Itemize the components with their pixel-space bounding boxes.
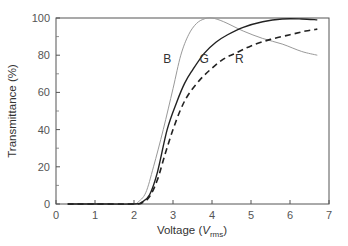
x-axis-title: Voltage (Vrms)	[157, 224, 227, 239]
curve-labels: BGR	[163, 52, 244, 66]
x-axis-title-close: )	[223, 224, 227, 236]
transmittance-voltage-chart: 01234567 020406080100 BGR Transmittance …	[0, 0, 348, 246]
x-tick-label: 0	[53, 209, 59, 221]
x-tick-label: 6	[287, 209, 293, 221]
y-tick-label: 80	[38, 49, 50, 61]
y-tick-label: 40	[38, 124, 50, 136]
curve-label-r: R	[235, 52, 244, 66]
series-g-curve	[68, 19, 318, 204]
curve-label-b: B	[163, 52, 171, 66]
x-tick-label: 5	[248, 209, 254, 221]
y-tick-label: 100	[32, 12, 50, 24]
y-axis-title: Transmittance (%)	[6, 64, 18, 158]
series-layer	[68, 18, 318, 204]
x-tick-label: 2	[131, 209, 137, 221]
x-axis-title-main: Voltage (	[157, 224, 203, 236]
curve-label-g: G	[200, 52, 209, 66]
x-tick-label: 3	[170, 209, 176, 221]
series-r-curve	[68, 29, 318, 204]
y-tick-label: 0	[44, 198, 50, 210]
y-tick-label: 20	[38, 161, 50, 173]
y-tick-label: 60	[38, 86, 50, 98]
x-axis-ticks: 01234567	[53, 200, 332, 221]
series-b-curve	[68, 18, 318, 204]
x-tick-label: 7	[326, 209, 332, 221]
x-axis-title-subscript: rms	[210, 230, 223, 239]
x-tick-label: 1	[92, 209, 98, 221]
x-tick-label: 4	[209, 209, 215, 221]
